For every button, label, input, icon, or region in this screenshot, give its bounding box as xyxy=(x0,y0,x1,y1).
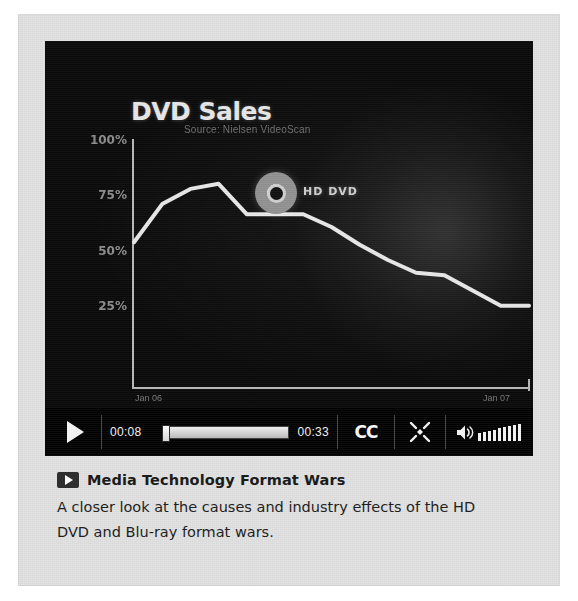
fullscreen-icon xyxy=(409,421,431,443)
closed-captions-button[interactable]: CC xyxy=(340,412,392,452)
scrubber-zone[interactable] xyxy=(142,412,294,452)
fullscreen-button[interactable] xyxy=(397,412,443,452)
volume-level-bars[interactable] xyxy=(478,424,521,441)
chart-plot-area: 100% 75% 50% 25% Jan 06 Jan 07 xyxy=(45,41,533,408)
volume-bar xyxy=(498,428,501,441)
caption-title-row: Media Technology Format Wars xyxy=(57,472,527,488)
play-glyph-icon xyxy=(65,475,73,485)
control-separator xyxy=(394,415,395,449)
volume-bar xyxy=(508,426,511,441)
control-separator xyxy=(337,415,338,449)
control-separator xyxy=(445,415,446,449)
control-separator xyxy=(101,415,102,449)
progress-scrubber[interactable] xyxy=(163,426,289,439)
volume-bar xyxy=(483,432,486,441)
video-caption: Media Technology Format Wars A closer lo… xyxy=(57,472,527,545)
screenshot-root: DVD Sales Source: Nielsen VideoScan 100%… xyxy=(0,0,578,601)
chart-annotation-label: HD DVD xyxy=(303,185,358,198)
dvd-disc-hole xyxy=(270,187,283,200)
play-icon xyxy=(67,421,84,443)
caption-title: Media Technology Format Wars xyxy=(87,472,345,488)
volume-bar xyxy=(513,425,516,441)
video-badge-icon xyxy=(57,472,79,488)
video-player[interactable]: DVD Sales Source: Nielsen VideoScan 100%… xyxy=(45,41,533,456)
content-panel: DVD Sales Source: Nielsen VideoScan 100%… xyxy=(18,14,560,586)
volume-bar xyxy=(478,433,481,441)
volume-bar xyxy=(488,431,491,441)
dvd-disc-icon xyxy=(255,172,297,214)
speaker-icon xyxy=(456,424,475,441)
scrubber-handle[interactable] xyxy=(162,425,170,442)
volume-bar xyxy=(518,424,521,441)
progress-fill xyxy=(164,427,288,438)
player-control-bar[interactable]: 00:08 00:33 CC xyxy=(45,408,533,456)
current-time-label: 00:08 xyxy=(110,425,142,439)
volume-bar xyxy=(503,427,506,441)
volume-control[interactable] xyxy=(448,412,527,452)
caption-description: A closer look at the causes and industry… xyxy=(57,495,487,545)
play-button[interactable] xyxy=(51,412,99,452)
volume-bar xyxy=(493,430,496,441)
video-stage[interactable]: DVD Sales Source: Nielsen VideoScan 100%… xyxy=(45,41,533,408)
sales-line-series xyxy=(45,41,533,408)
duration-label: 00:33 xyxy=(297,425,329,439)
